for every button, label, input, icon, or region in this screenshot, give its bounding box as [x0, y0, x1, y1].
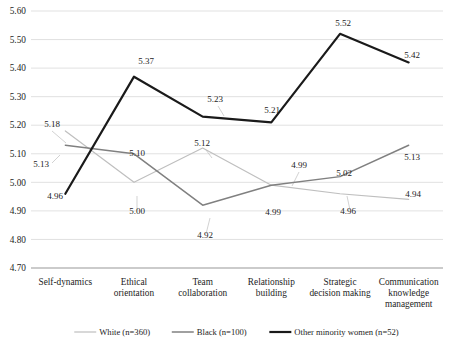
data-series [65, 34, 408, 205]
data-point-label: 4.96 [47, 191, 63, 201]
x-tick-label: Strategicdecision making [309, 277, 371, 298]
series-line-0 [65, 131, 408, 200]
legend-label: White (n=360) [99, 327, 150, 337]
chart-container: 5.605.505.405.305.205.105.004.904.804.70… [0, 0, 454, 346]
y-tick-label: 5.60 [10, 6, 27, 16]
y-tick-label: 4.80 [10, 235, 27, 245]
data-point-label: 5.02 [336, 168, 352, 178]
data-point-label: 5.00 [129, 206, 145, 216]
data-point-label: 5.18 [44, 119, 60, 129]
line-chart: 5.605.505.405.305.205.105.004.904.804.70… [0, 0, 454, 346]
data-point-label: 4.92 [197, 230, 213, 240]
data-point-labels: 5.185.134.965.375.105.005.235.124.925.21… [33, 18, 421, 240]
y-tick-label: 4.70 [10, 263, 27, 273]
y-tick-label: 5.20 [10, 120, 27, 130]
data-point-label: 5.12 [194, 138, 210, 148]
data-point-label: 5.21 [264, 105, 280, 115]
data-point-label: 4.99 [265, 207, 281, 217]
x-tick-label: Ethicalorientation [114, 277, 155, 298]
label-leader-line [52, 155, 60, 163]
x-tick-label: Teamcollaboration [178, 277, 227, 298]
y-tick-label: 4.90 [10, 206, 27, 216]
x-tick-label: Self-dynamics [38, 277, 92, 287]
data-point-label: 4.96 [340, 206, 356, 216]
data-point-label: 4.99 [291, 160, 307, 170]
x-axis-tick-labels: Self-dynamicsEthicalorientationTeamcolla… [38, 277, 438, 309]
data-point-label: 5.52 [335, 18, 351, 28]
legend-label: Other minority women (n=52) [294, 327, 399, 337]
legend-item-0[interactable]: White (n=360) [74, 327, 150, 337]
y-tick-label: 5.00 [10, 178, 27, 188]
y-tick-label: 5.50 [10, 35, 27, 45]
label-leader-line [218, 106, 224, 116]
x-tick-label: Communicationknowledgemanagement [379, 277, 439, 309]
legend-item-2[interactable]: Other minority women (n=52) [269, 327, 399, 337]
label-leader-line [292, 172, 299, 186]
data-point-label: 5.42 [404, 50, 420, 60]
x-tick-label: Relationshipbuilding [248, 277, 295, 298]
series-line-1 [65, 145, 408, 205]
data-point-label: 4.94 [405, 189, 421, 199]
data-point-label: 5.10 [129, 148, 145, 158]
y-tick-label: 5.10 [10, 149, 27, 159]
y-tick-label: 5.40 [10, 63, 27, 73]
legend-label: Black (n=100) [197, 327, 247, 337]
chart-legend: White (n=360)Black (n=100)Other minority… [74, 327, 399, 337]
gridlines [31, 11, 443, 268]
label-leader-line [52, 131, 66, 143]
data-point-label: 5.37 [138, 56, 154, 66]
y-tick-label: 5.30 [10, 92, 27, 102]
legend-item-1[interactable]: Black (n=100) [172, 327, 247, 337]
data-point-label: 5.13 [404, 152, 420, 162]
y-axis-tick-labels: 5.605.505.405.305.205.105.004.904.804.70 [10, 6, 27, 273]
data-point-label: 5.13 [33, 159, 49, 169]
data-point-label: 5.23 [207, 94, 223, 104]
